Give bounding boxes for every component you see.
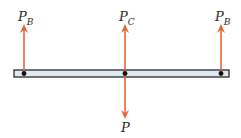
left-pin <box>22 71 27 76</box>
center-pin <box>123 71 128 76</box>
right-force-label: PB <box>215 10 230 27</box>
left-force-label: PB <box>18 10 33 27</box>
applied-load-label: P <box>121 121 130 134</box>
beam <box>14 70 229 77</box>
center-force-label: PC <box>119 10 135 27</box>
right-pin <box>219 71 224 76</box>
